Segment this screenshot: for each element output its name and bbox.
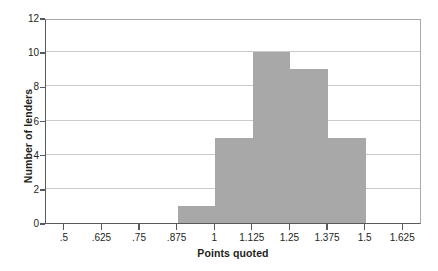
plot-area xyxy=(45,19,421,224)
x-tick xyxy=(251,224,252,230)
x-tick xyxy=(214,224,215,230)
y-tick-label: 8 xyxy=(13,82,39,92)
y-tick xyxy=(40,155,45,156)
bar-series xyxy=(46,20,420,223)
x-tick xyxy=(63,224,64,230)
histogram-chart: Number of lenders 024681012 .5.625.75.87… xyxy=(0,0,438,271)
x-tick xyxy=(326,224,327,230)
x-tick xyxy=(101,224,102,230)
x-tick xyxy=(402,224,403,230)
y-tick xyxy=(40,18,45,19)
bar xyxy=(253,52,291,223)
y-tick-label: 10 xyxy=(13,48,39,58)
y-tick xyxy=(40,223,45,224)
y-tick xyxy=(40,189,45,190)
y-tick xyxy=(40,87,45,88)
bar xyxy=(290,69,328,223)
x-axis-title: Points quoted xyxy=(45,247,421,259)
bar xyxy=(215,138,253,223)
x-tick xyxy=(289,224,290,230)
x-tick xyxy=(364,224,365,230)
y-tick xyxy=(40,52,45,53)
y-tick-label: 4 xyxy=(13,151,39,161)
x-tick xyxy=(176,224,177,230)
x-tick xyxy=(138,224,139,230)
y-tick-label: 2 xyxy=(13,185,39,195)
y-tick xyxy=(40,121,45,122)
bar xyxy=(178,206,216,223)
bar xyxy=(328,138,366,223)
y-tick-label: 12 xyxy=(13,14,39,24)
y-tick-label: 0 xyxy=(13,219,39,229)
y-tick-label: 6 xyxy=(13,117,39,127)
x-tick-label: 1.625 xyxy=(379,232,425,243)
